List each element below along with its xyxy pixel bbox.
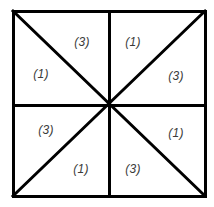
- figure-container: (3) (1) (1) (3) (3) (1) (1) (3): [0, 0, 214, 207]
- region-label-bottom-right-lower: (3): [125, 163, 140, 175]
- region-label-top-right-lower: (3): [168, 70, 183, 82]
- square-eight-triangles-svg: [0, 0, 214, 207]
- region-label-top-right-upper: (1): [125, 36, 140, 48]
- region-label-top-left-lower: (1): [33, 68, 48, 80]
- region-label-bottom-left-lower: (1): [73, 163, 88, 175]
- region-label-top-left-upper: (3): [74, 36, 89, 48]
- region-label-bottom-left-upper: (3): [38, 124, 53, 136]
- region-label-bottom-right-upper: (1): [168, 127, 183, 139]
